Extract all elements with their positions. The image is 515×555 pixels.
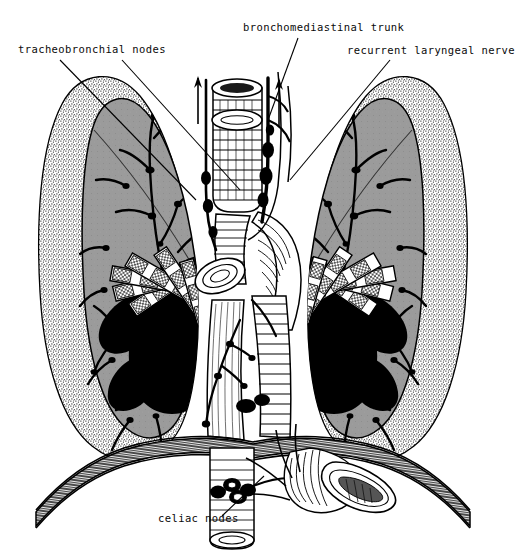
mediastinum xyxy=(190,72,307,470)
label-recurrent-laryngeal-nerve: recurrent laryngeal nerve xyxy=(347,45,515,56)
trachea xyxy=(212,79,262,212)
label-tracheobronchial-nodes: tracheobronchial nodes xyxy=(18,44,166,55)
label-bronchomediastinal-trunk: bronchomediastinal trunk xyxy=(243,22,404,33)
label-celiac-nodes: celiac nodes xyxy=(158,513,239,524)
